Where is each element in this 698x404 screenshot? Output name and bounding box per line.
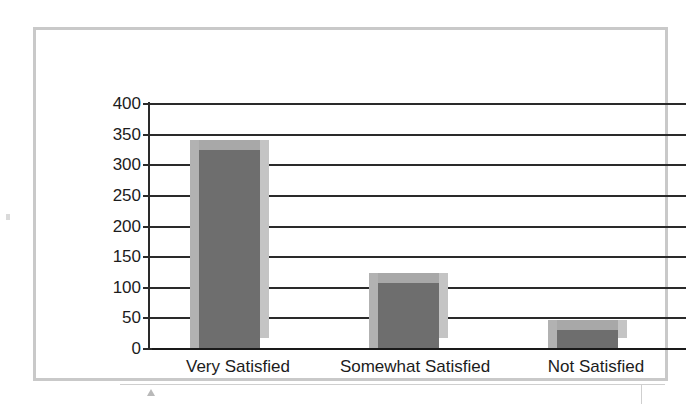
scan-artifact-rule bbox=[120, 384, 665, 385]
bar-front-face bbox=[557, 330, 618, 348]
y-tick-200 bbox=[143, 226, 152, 228]
bar-somewhat-satisfied[interactable] bbox=[369, 273, 439, 349]
scan-artifact-divider bbox=[641, 384, 642, 404]
y-tick-label-50: 50 bbox=[97, 309, 141, 326]
bar-left-face bbox=[369, 273, 378, 349]
bar-left-face bbox=[190, 140, 199, 348]
scan-artifact-caret bbox=[147, 389, 155, 396]
bar-right-face bbox=[439, 273, 448, 339]
x-label-not-satisfied: Not Satisfied bbox=[506, 357, 686, 377]
bar-top-face bbox=[369, 273, 439, 283]
y-tick-label-100: 100 bbox=[97, 279, 141, 296]
y-tick-label-0: 0 bbox=[97, 340, 141, 357]
y-tick-250 bbox=[143, 195, 152, 197]
x-label-somewhat-satisfied: Somewhat Satisfied bbox=[320, 357, 510, 377]
y-tick-label-200: 200 bbox=[97, 218, 141, 235]
y-tick-150 bbox=[143, 256, 152, 258]
gridline-350 bbox=[148, 134, 686, 136]
x-label-very-satisfied: Very Satisfied bbox=[148, 357, 328, 377]
y-tick-100 bbox=[143, 287, 152, 289]
bar-top-face bbox=[548, 320, 618, 330]
bar-top-face bbox=[190, 140, 260, 150]
gridline-400 bbox=[148, 103, 686, 105]
bar-front-face bbox=[199, 150, 260, 348]
bar-front-face bbox=[378, 283, 439, 349]
bar-right-face bbox=[260, 140, 269, 338]
y-tick-350 bbox=[143, 134, 152, 136]
y-tick-400 bbox=[143, 103, 152, 105]
y-axis-tick-labels: 400 350 300 250 200 150 100 50 0 bbox=[93, 103, 141, 348]
bar-very-satisfied[interactable] bbox=[190, 140, 260, 348]
bar-right-face bbox=[618, 320, 627, 338]
bar-left-face bbox=[548, 320, 557, 348]
scan-artifact-left-mark bbox=[6, 214, 10, 220]
y-axis bbox=[148, 102, 150, 350]
y-tick-label-300: 300 bbox=[97, 156, 141, 173]
chart-figure-frame: 400 350 300 250 200 150 100 50 0 Very Sa… bbox=[33, 27, 668, 381]
y-tick-label-350: 350 bbox=[97, 126, 141, 143]
y-tick-label-150: 150 bbox=[97, 248, 141, 265]
axis-baseline-0 bbox=[148, 348, 686, 350]
y-tick-50 bbox=[143, 317, 152, 319]
plot-area bbox=[148, 103, 686, 348]
y-tick-label-400: 400 bbox=[97, 95, 141, 112]
y-tick-0 bbox=[143, 348, 152, 350]
y-tick-300 bbox=[143, 164, 152, 166]
y-tick-label-250: 250 bbox=[97, 187, 141, 204]
scanned-page: 400 350 300 250 200 150 100 50 0 Very Sa… bbox=[0, 0, 698, 404]
bar-not-satisfied[interactable] bbox=[548, 320, 618, 348]
x-axis-category-labels: Very Satisfied Somewhat Satisfied Not Sa… bbox=[148, 357, 686, 381]
